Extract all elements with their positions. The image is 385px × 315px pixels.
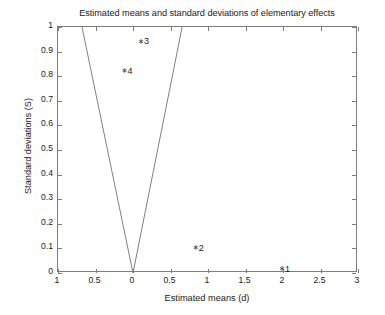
y-tick-1 xyxy=(58,248,62,249)
x-tick-8 xyxy=(358,269,359,273)
y-tick-10 xyxy=(58,27,62,28)
y-tick-right-4 xyxy=(352,175,356,176)
y-tick-6 xyxy=(58,125,62,126)
x-tick-2 xyxy=(133,269,134,273)
x-tick-top-3 xyxy=(171,27,172,31)
y-tick-right-3 xyxy=(352,199,356,200)
data-point-label-4: 4 xyxy=(128,66,133,76)
y-tick-label-1: 0.1 xyxy=(25,241,53,251)
x-tick-top-4 xyxy=(208,27,209,31)
x-tick-top-5 xyxy=(246,27,247,31)
y-tick-label-10: 1 xyxy=(25,20,53,30)
x-tick-label-8: 3 xyxy=(342,275,372,285)
y-tick-right-0 xyxy=(352,273,356,274)
y-tick-9 xyxy=(58,52,62,53)
x-tick-label-0: 1 xyxy=(42,275,72,285)
y-tick-label-5: 0.5 xyxy=(25,143,53,153)
x-tick-top-8 xyxy=(358,27,359,31)
y-tick-right-10 xyxy=(352,27,356,28)
y-tick-right-7 xyxy=(352,101,356,102)
data-point-label-3: 3 xyxy=(144,36,149,46)
x-tick-label-1: 0.5 xyxy=(80,275,110,285)
y-tick-label-8: 0.8 xyxy=(25,69,53,79)
y-tick-right-2 xyxy=(352,224,356,225)
x-tick-label-5: 1.5 xyxy=(230,275,260,285)
x-axis-title: Estimated means (d) xyxy=(57,293,357,303)
x-tick-label-2: 0 xyxy=(117,275,147,285)
y-tick-right-6 xyxy=(352,125,356,126)
right-wedge-line xyxy=(133,27,182,273)
plot-lines-layer xyxy=(58,27,358,273)
y-tick-label-7: 0.7 xyxy=(25,94,53,104)
y-tick-4 xyxy=(58,175,62,176)
y-tick-label-4: 0.4 xyxy=(25,168,53,178)
x-tick-label-6: 2 xyxy=(267,275,297,285)
y-tick-label-2: 0.2 xyxy=(25,217,53,227)
x-tick-label-4: 1 xyxy=(192,275,222,285)
x-tick-1 xyxy=(96,269,97,273)
y-tick-0 xyxy=(58,273,62,274)
y-tick-label-9: 0.9 xyxy=(25,45,53,55)
y-tick-5 xyxy=(58,150,62,151)
x-tick-top-1 xyxy=(96,27,97,31)
data-point-label-2: 2 xyxy=(199,243,204,253)
data-point-label-1: 1 xyxy=(285,264,290,274)
x-tick-label-7: 2.5 xyxy=(305,275,335,285)
y-tick-right-8 xyxy=(352,76,356,77)
left-wedge-line xyxy=(82,27,133,273)
x-tick-top-2 xyxy=(133,27,134,31)
x-tick-7 xyxy=(321,269,322,273)
y-tick-8 xyxy=(58,76,62,77)
chart-title: Estimated means and standard deviations … xyxy=(57,8,357,19)
x-tick-4 xyxy=(208,269,209,273)
y-tick-2 xyxy=(58,224,62,225)
y-tick-right-9 xyxy=(352,52,356,53)
y-tick-label-6: 0.6 xyxy=(25,118,53,128)
chart-figure: Estimated means and standard deviations … xyxy=(0,0,385,315)
y-tick-7 xyxy=(58,101,62,102)
y-tick-label-3: 0.3 xyxy=(25,192,53,202)
y-tick-label-0: 0 xyxy=(25,266,53,276)
y-tick-right-5 xyxy=(352,150,356,151)
y-tick-right-1 xyxy=(352,248,356,249)
plot-area xyxy=(57,26,357,272)
x-tick-top-6 xyxy=(283,27,284,31)
y-tick-3 xyxy=(58,199,62,200)
x-tick-5 xyxy=(246,269,247,273)
x-tick-label-3: 0.5 xyxy=(155,275,185,285)
x-tick-3 xyxy=(171,269,172,273)
x-tick-top-7 xyxy=(321,27,322,31)
